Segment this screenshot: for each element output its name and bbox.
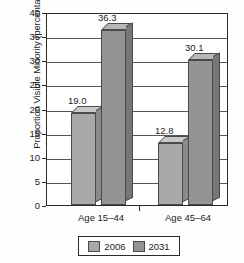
- bar-2031-1: [101, 30, 126, 205]
- legend-swatch-2006: [88, 241, 100, 252]
- value-label-2031-1: 36.3: [98, 12, 117, 23]
- chart-legend: 2006 2031: [78, 236, 180, 256]
- gridline: [47, 38, 227, 39]
- y-axis-tick-label: 15: [14, 128, 40, 139]
- y-axis-tick-label: 30: [14, 55, 40, 66]
- bar-2031-2: [188, 60, 213, 205]
- y-axis-tick-mark: [42, 206, 46, 207]
- legend-label-2031: 2031: [149, 241, 170, 252]
- bar-front-face: [188, 60, 213, 205]
- value-label-2031-2: 30.1: [185, 42, 204, 53]
- y-axis-tick-label: 20: [14, 104, 40, 115]
- y-axis-tick-label: 10: [14, 152, 40, 163]
- y-axis-tick-label: 35: [14, 31, 40, 42]
- bar-front-face: [158, 143, 183, 205]
- value-label-2006-1: 19.0: [68, 95, 87, 106]
- bar-front-face: [71, 113, 96, 205]
- x-axis-tick-mark: [139, 206, 140, 211]
- legend-item-2031: 2031: [133, 241, 170, 252]
- legend-item-2006: 2006: [88, 241, 125, 252]
- y-axis-tick-label: 40: [14, 7, 40, 18]
- y-axis-tick-label: 25: [14, 79, 40, 90]
- bar-side-face: [213, 53, 220, 202]
- bar-side-face: [126, 23, 133, 202]
- legend-swatch-2031: [133, 241, 145, 252]
- y-axis-tick-label: 0: [14, 200, 40, 211]
- legend-label-2006: 2006: [104, 241, 125, 252]
- y-axis-tick-label: 5: [14, 176, 40, 187]
- chart-figure: Proportion Visible Minority (percentage)…: [0, 0, 244, 263]
- x-axis-category-label: Age 15–44: [56, 212, 146, 223]
- bar-front-face: [101, 30, 126, 205]
- value-label-2006-2: 12.8: [155, 125, 174, 136]
- x-axis-category-label: Age 45–64: [143, 212, 233, 223]
- bar-2006-1: [71, 113, 96, 205]
- bar-2006-2: [158, 143, 183, 205]
